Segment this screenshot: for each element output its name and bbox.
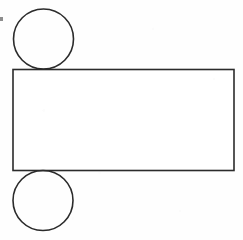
bottom-circle [13,171,73,231]
main-rectangle [13,70,234,171]
figure-canvas: Geometric figure: rectangle with two tan… [0,0,243,240]
scan-speck [0,17,3,21]
geometric-figure: Geometric figure: rectangle with two tan… [0,0,243,240]
top-circle [14,9,74,69]
